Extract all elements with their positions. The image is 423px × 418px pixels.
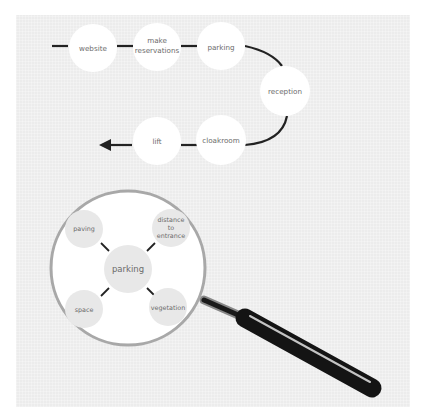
node-label: lift xyxy=(152,137,161,146)
aspect-center-parking: parking xyxy=(104,245,152,293)
aspect-node-distance-to-entrance: distance to entrance xyxy=(152,209,190,247)
journey-node-reception: reception xyxy=(260,66,310,116)
node-label: parking xyxy=(207,43,234,52)
node-label: make xyxy=(147,36,167,45)
curve-connector xyxy=(245,116,287,145)
arrow-left-icon xyxy=(99,139,111,151)
node-label: space xyxy=(75,306,94,314)
aspect-node-vegetation: vegetation xyxy=(149,288,187,326)
node-label: vegetation xyxy=(151,304,185,312)
node-label: entrance xyxy=(157,232,186,240)
node-label: website xyxy=(79,44,107,53)
journey-node-parking: parking xyxy=(197,22,245,70)
journey-node-website: website xyxy=(69,24,117,72)
journey-node-lift: lift xyxy=(133,117,181,165)
node-label: reception xyxy=(268,87,302,96)
aspect-node-space: space xyxy=(65,290,103,328)
journey-node-make-reservations: make reservations xyxy=(133,23,181,71)
node-label: reservations xyxy=(135,46,180,55)
node-label: to xyxy=(168,224,175,232)
journey-node-cloakroom: cloakroom xyxy=(196,115,246,165)
curve-connector xyxy=(245,46,282,66)
node-label: cloakroom xyxy=(202,136,240,145)
magnifier-handle-icon xyxy=(204,300,372,388)
node-label: parking xyxy=(112,264,144,274)
journey-diagram: website make reservations parking recept… xyxy=(0,0,423,418)
aspect-node-paving: paving xyxy=(65,210,103,248)
node-label: distance xyxy=(157,216,184,224)
node-label: paving xyxy=(73,225,95,233)
